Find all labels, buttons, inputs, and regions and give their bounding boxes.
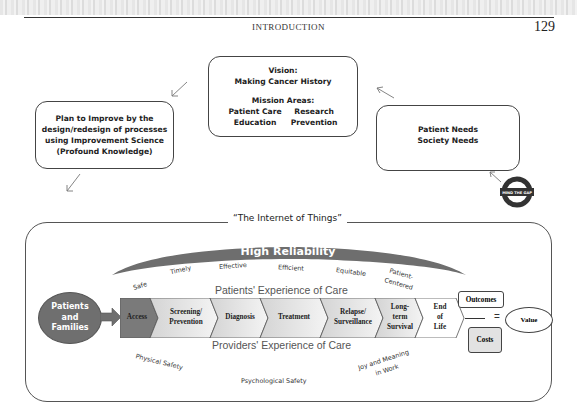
equals-sign: = — [494, 311, 500, 322]
header-rule — [24, 17, 554, 18]
needs-box: Patient Needs Society Needs — [376, 105, 520, 171]
arrow-plan-to-iot-icon — [64, 172, 84, 194]
providers-experience-label: Providers' Experience of Care — [212, 339, 351, 351]
mission-label: Mission Areas: — [252, 95, 315, 106]
patients-arrow-icon — [100, 306, 122, 328]
plan-line: (Profound Knowledge) — [56, 146, 152, 157]
outcomes-box: Outcomes — [458, 291, 504, 308]
mission-areas: Patient Care Research Education Preventi… — [229, 106, 338, 128]
needs-line: Patient Needs — [418, 124, 479, 135]
dimension-efficient: Efficient — [278, 263, 304, 272]
mission-area: Patient Care — [229, 106, 282, 117]
page-top-band — [0, 0, 577, 15]
plan-line: Plan to Improve by the — [56, 113, 154, 124]
stage-long-term-survival: Long- term Survival — [380, 298, 420, 338]
page-number: 129 — [534, 19, 555, 35]
running-head: INTRODUCTION — [0, 22, 577, 32]
iot-title: “The Internet of Things” — [228, 213, 347, 223]
stage-end-of-life: End of Life — [420, 298, 460, 338]
plan-line: design/redesign of processes — [42, 124, 167, 135]
arrow-needs-to-vision-icon — [374, 86, 396, 100]
mission-area: Education — [229, 117, 282, 128]
mission-area: Research — [291, 106, 338, 117]
vision-text: Making Cancer History — [235, 76, 332, 87]
svg-text:MIND THE GAP: MIND THE GAP — [502, 191, 532, 195]
vision-box: Vision: Making Cancer History Mission Ar… — [208, 56, 358, 137]
vision-label: Vision: — [268, 65, 297, 76]
mind-the-gap-icon: MIND THE GAP — [499, 174, 535, 210]
stage-relapse-surveillance: Relapse/ Surveillance — [324, 298, 382, 338]
stage-screening-prevention: Screening/ Prevention — [156, 298, 216, 338]
arrow-vision-to-plan-icon — [168, 80, 190, 100]
mission-area: Prevention — [291, 117, 338, 128]
stage-diagnosis: Diagnosis — [214, 298, 266, 338]
plan-line: using Improvement Science — [45, 135, 164, 146]
fraction-bar — [465, 318, 485, 319]
stage-treatment: Treatment — [264, 298, 324, 338]
high-reliability-label: High Reliability — [228, 245, 348, 258]
value-ellipse: Value — [505, 307, 553, 333]
provider-psychological-safety: Psychological Safety — [241, 377, 307, 385]
patients-families-bubble: Patients and Families — [38, 292, 102, 344]
stage-access: Access — [120, 298, 154, 338]
plan-box: Plan to Improve by the design/redesign o… — [35, 101, 174, 169]
needs-line: Society Needs — [418, 135, 479, 146]
patients-experience-label: Patients' Experience of Care — [215, 284, 348, 296]
costs-box: Costs — [468, 327, 502, 353]
